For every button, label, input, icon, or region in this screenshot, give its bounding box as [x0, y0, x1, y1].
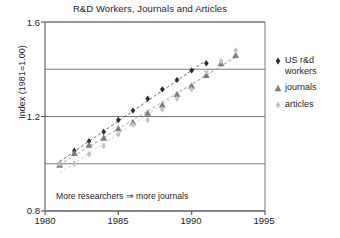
- legend-label-articles: articles: [283, 99, 314, 110]
- data-point-us-r-d-workers[interactable]: [175, 77, 180, 83]
- data-point-us-r-d-workers[interactable]: [160, 86, 165, 92]
- data-point-us-r-d-workers[interactable]: [189, 67, 194, 73]
- data-point-us-r-d-workers[interactable]: [145, 96, 150, 102]
- data-point-us-r-d-workers[interactable]: [204, 60, 209, 66]
- legend-label-workers: US r&d workers: [283, 55, 317, 76]
- data-point-journals[interactable]: [86, 141, 93, 147]
- legend-item-articles[interactable]: articles: [272, 99, 340, 110]
- legend-label-workers-line1: US r&d: [285, 55, 314, 65]
- data-point-us-r-d-workers[interactable]: [131, 107, 136, 113]
- diamond-light-icon: [272, 99, 283, 109]
- data-point-articles[interactable]: [145, 117, 150, 123]
- data-point-journals[interactable]: [115, 125, 122, 131]
- data-point-articles[interactable]: [233, 47, 238, 53]
- chart-container: R&D Workers, Journals and Articles Index…: [0, 0, 340, 238]
- legend-label-journals: journals: [283, 82, 317, 93]
- data-point-articles[interactable]: [116, 131, 121, 137]
- legend-label-workers-line2: workers: [285, 66, 317, 76]
- triangle-gray-icon: [272, 82, 283, 92]
- diamond-dark-icon: [272, 55, 283, 65]
- data-point-journals[interactable]: [100, 134, 107, 140]
- data-point-us-r-d-workers[interactable]: [101, 129, 106, 135]
- data-point-journals[interactable]: [71, 150, 78, 156]
- legend-item-journals[interactable]: journals: [272, 82, 340, 93]
- plot-area: [0, 0, 340, 238]
- data-point-articles[interactable]: [72, 161, 77, 167]
- data-point-articles[interactable]: [101, 143, 106, 149]
- chart-legend: US r&d workers journals articles: [272, 55, 340, 115]
- legend-item-workers[interactable]: US r&d workers: [272, 55, 340, 76]
